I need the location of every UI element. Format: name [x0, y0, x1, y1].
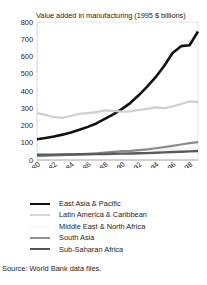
legend-swatch-icon	[30, 214, 50, 216]
x-tick-label: 1990	[109, 160, 127, 168]
y-tick-label: 200	[21, 121, 33, 130]
legend-item[interactable]: East Asia & Pacific	[0, 198, 207, 209]
plot-background	[37, 22, 198, 160]
legend-swatch-icon	[30, 248, 50, 250]
y-tick-label: 100	[21, 138, 33, 147]
source-note: Source: World Bank data files.	[2, 264, 101, 273]
legend-item-label: Sub-Saharan Africa	[59, 246, 123, 253]
legend-item-label: Middle East & North Africa	[59, 223, 145, 230]
legend-item-label: East Asia & Pacific	[59, 200, 121, 207]
chart-legend: East Asia & PacificLatin America & Carib…	[0, 198, 207, 255]
legend-item[interactable]: Middle East & North Africa	[0, 221, 207, 232]
y-tick-label: 800	[21, 18, 33, 27]
x-axis-tick-labels: 1980198219841986198819901992199419961998	[24, 160, 194, 168]
y-axis-tick-labels: 0100200300400500600700800	[21, 18, 33, 165]
x-tick-label: 1980	[24, 160, 42, 168]
y-tick-label: 400	[21, 87, 33, 96]
x-tick-label: 1992	[126, 160, 144, 168]
x-tick-label: 1996	[160, 160, 178, 168]
y-tick-label: 600	[21, 52, 33, 61]
y-tick-label: 300	[21, 104, 33, 113]
chart-figure: Value added in manufacturing (1995 $ bil…	[0, 0, 207, 285]
legend-item[interactable]: Latin America & Caribbean	[0, 209, 207, 220]
legend-item-label: Latin America & Caribbean	[59, 211, 147, 218]
legend-swatch-icon	[30, 237, 50, 239]
y-tick-label: 500	[21, 69, 33, 78]
legend-swatch-icon	[30, 203, 50, 205]
x-tick-label: 1984	[58, 160, 76, 168]
legend-swatch-icon	[30, 225, 50, 227]
legend-item[interactable]: South Asia	[0, 232, 207, 243]
x-tick-label: 1988	[92, 160, 110, 168]
x-tick-label: 1994	[143, 160, 161, 168]
plot-area: 0100200300400500600700800 19801982198419…	[0, 18, 207, 168]
x-tick-label: 1982	[41, 160, 59, 168]
x-tick-label: 1986	[75, 160, 93, 168]
x-tick-label: 1998	[177, 160, 195, 168]
y-tick-label: 700	[21, 35, 33, 44]
legend-item[interactable]: Sub-Saharan Africa	[0, 244, 207, 255]
legend-item-label: South Asia	[59, 234, 94, 241]
